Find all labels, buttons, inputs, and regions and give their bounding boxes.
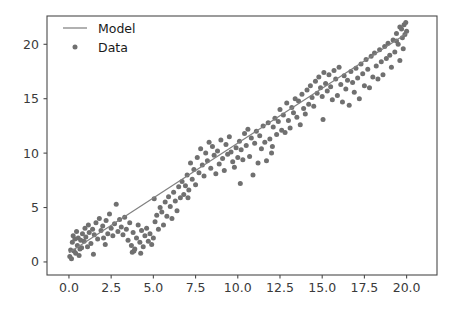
- data-point: [286, 118, 291, 123]
- data-point: [270, 144, 275, 149]
- data-point: [95, 237, 100, 242]
- x-tick-label: 10.0: [224, 280, 252, 295]
- data-point: [131, 249, 136, 254]
- data-point: [175, 208, 180, 213]
- data-point: [142, 233, 147, 238]
- data-point: [401, 46, 406, 51]
- data-point: [88, 241, 93, 246]
- data-point: [326, 72, 331, 77]
- data-point: [298, 122, 303, 127]
- data-point: [403, 20, 408, 25]
- data-point: [262, 140, 267, 145]
- data-point: [269, 151, 274, 156]
- data-point: [303, 111, 308, 116]
- plot-background: [0, 0, 470, 315]
- legend-label: Data: [98, 40, 128, 55]
- data-point: [294, 115, 299, 120]
- x-tick-label: 15.0: [308, 280, 336, 295]
- data-point: [330, 97, 335, 102]
- data-point: [242, 131, 247, 136]
- x-tick-label: 12.5: [266, 280, 294, 295]
- y-tick-label: 5: [31, 200, 39, 215]
- data-point: [343, 86, 348, 91]
- figure-canvas: 0.02.55.07.510.012.515.017.520.0 0510152…: [0, 0, 470, 315]
- data-point: [392, 49, 397, 54]
- data-point: [93, 220, 98, 225]
- data-point: [195, 155, 200, 160]
- data-point: [169, 216, 174, 221]
- data-point: [215, 148, 220, 153]
- data-point: [365, 67, 370, 72]
- data-point: [249, 135, 254, 140]
- data-point: [161, 222, 166, 227]
- data-point: [230, 159, 235, 164]
- data-point: [256, 160, 261, 165]
- scatter-plot: 0.02.55.07.510.012.515.017.520.0 0510152…: [0, 0, 470, 315]
- data-point: [389, 65, 394, 70]
- data-point: [259, 146, 264, 151]
- data-point: [250, 172, 255, 177]
- data-point: [190, 177, 195, 182]
- data-point: [210, 144, 215, 149]
- data-point: [127, 220, 132, 225]
- data-point: [86, 222, 91, 227]
- data-point: [367, 85, 372, 90]
- data-point: [176, 184, 181, 189]
- data-point: [131, 230, 136, 235]
- data-point: [186, 188, 191, 193]
- data-point: [306, 102, 311, 107]
- data-point: [69, 256, 74, 261]
- data-point: [126, 238, 131, 243]
- data-point: [229, 150, 234, 155]
- data-point: [397, 24, 402, 29]
- data-point: [360, 71, 365, 76]
- y-tick-label: 15: [23, 91, 39, 106]
- data-point: [208, 166, 213, 171]
- data-point: [338, 82, 343, 87]
- data-point: [218, 138, 223, 143]
- data-point: [235, 155, 240, 160]
- data-point: [100, 224, 105, 229]
- data-point: [134, 236, 139, 241]
- data-point: [137, 240, 142, 245]
- data-point: [362, 83, 367, 88]
- data-point: [337, 65, 342, 70]
- data-point: [196, 170, 201, 175]
- data-point: [104, 218, 109, 223]
- data-point: [352, 90, 357, 95]
- data-point: [308, 83, 313, 88]
- x-tick-label: 7.5: [186, 280, 206, 295]
- data-point: [166, 194, 171, 199]
- data-point: [379, 59, 384, 64]
- data-point: [101, 236, 106, 241]
- data-point: [311, 104, 316, 109]
- data-point: [83, 234, 88, 239]
- data-point: [183, 183, 188, 188]
- data-point: [276, 119, 281, 124]
- data-point: [380, 72, 385, 77]
- data-point: [244, 143, 249, 148]
- y-tick-label: 20: [23, 37, 39, 52]
- data-point: [288, 126, 293, 131]
- data-point: [264, 158, 269, 163]
- data-point: [335, 93, 340, 98]
- data-point: [328, 84, 333, 89]
- data-point: [198, 146, 203, 151]
- data-point: [154, 213, 159, 218]
- data-point: [301, 106, 306, 111]
- data-point: [267, 136, 272, 141]
- data-point: [110, 233, 115, 238]
- data-point: [203, 151, 208, 156]
- data-point: [171, 190, 176, 195]
- data-point: [321, 117, 326, 122]
- data-point: [119, 225, 124, 230]
- data-point: [257, 133, 262, 138]
- data-point: [320, 94, 325, 99]
- data-point: [387, 53, 392, 58]
- y-tick-label: 0: [31, 254, 39, 269]
- data-point: [274, 132, 279, 137]
- data-point: [238, 181, 243, 186]
- data-point: [394, 31, 399, 36]
- data-point: [223, 142, 228, 147]
- x-tick-label: 20.0: [393, 280, 421, 295]
